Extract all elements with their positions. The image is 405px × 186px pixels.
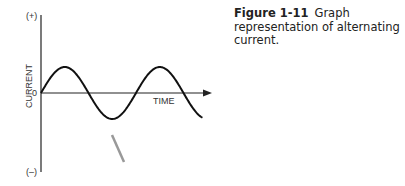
y-axis-label: CURRENT bbox=[24, 63, 34, 108]
x-axis-arrowhead bbox=[203, 90, 212, 97]
figure-caption: Figure 1-11Graph representation of alter… bbox=[234, 7, 404, 48]
pen-scribble-mark bbox=[112, 135, 124, 162]
y-bottom-label: (–) bbox=[26, 167, 37, 177]
figure-number: Figure 1-11 bbox=[234, 6, 308, 20]
ac-current-graph: (+) (–) 0 CURRENT TIME bbox=[0, 0, 230, 186]
x-axis-label: TIME bbox=[153, 96, 175, 106]
y-top-label: (+) bbox=[26, 11, 37, 21]
